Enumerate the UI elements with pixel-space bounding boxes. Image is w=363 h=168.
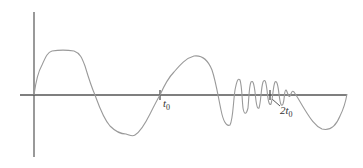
2t0-label: 2t0: [280, 104, 293, 119]
waveform-plot: [0, 0, 363, 168]
2t0-pointer: [272, 99, 280, 106]
waveform-diagram: t0 2t0: [0, 0, 363, 168]
waveform-curve: [34, 50, 347, 136]
t0-label: t0: [163, 97, 170, 112]
